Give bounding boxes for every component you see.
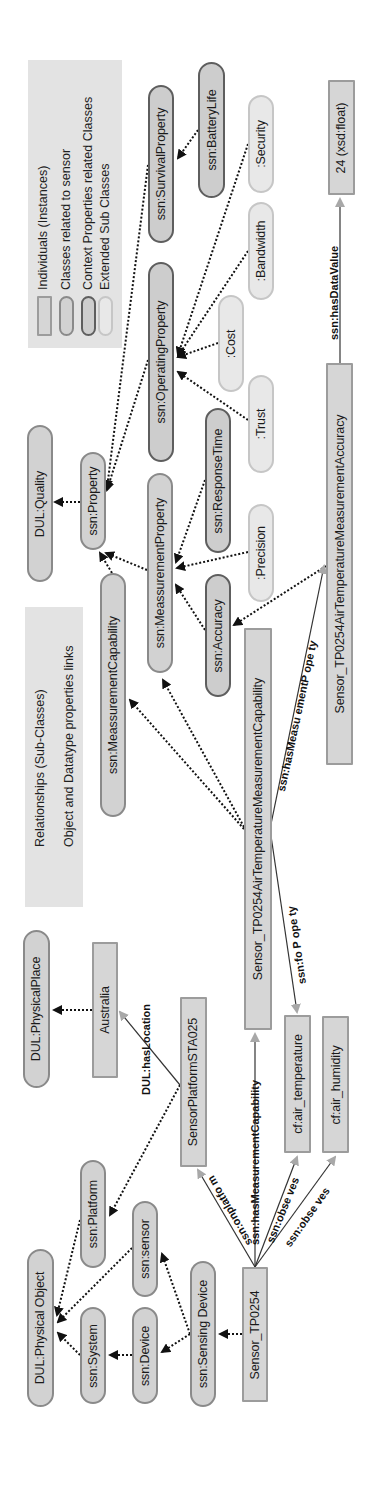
node-ssn-accuracy[interactable]: ssn:Accuracy [205, 574, 231, 697]
node-label: :Precision [254, 526, 268, 580]
node-dul-physical-object[interactable]: DUL:Physical Object [27, 1249, 54, 1407]
legend-link-types: Relationships (Sub-Classes) Object and D… [25, 607, 83, 907]
edge-label-has-data-value: ssn:hasDataValue [328, 246, 340, 340]
node-label: ssn:SurvivalProperty [154, 108, 168, 221]
legend-label-property-link: Object and Datatype properties links [62, 646, 76, 848]
edge-label-has-location: DUL:hasLocation [140, 1004, 152, 1095]
node-precision[interactable]: :Precision [248, 504, 274, 602]
node-ssn-measurement-capability[interactable]: ssn:MeassurementCapability [100, 573, 126, 817]
node-label: 24 (xsd:float) [335, 102, 349, 173]
legend-swatch-class [59, 296, 74, 336]
node-label: ssn:BatteryLife [205, 89, 219, 170]
node-ssn-platform[interactable]: ssn:Platform [80, 1160, 106, 1268]
node-label: cf:air_temperature [291, 1034, 305, 1134]
node-sensor-platform[interactable]: SensorPlatformSTA025 [180, 997, 207, 1167]
node-label: Australia [98, 986, 112, 1034]
node-label: ssn:MeassurementCapability [106, 616, 120, 774]
node-cost[interactable]: :Cost [218, 295, 244, 392]
node-label: :Security [254, 120, 268, 168]
node-cf-air-humidity[interactable]: cf:air_humidity [322, 1016, 349, 1153]
legend-label-context: Context Properties related Classes [81, 97, 95, 290]
node-label: DUL:Quality [33, 470, 47, 536]
node-cf-air-temperature[interactable]: cf:air_temperature [284, 1015, 311, 1153]
node-sensor-tp0254[interactable]: Sensor_TP0254 [242, 1267, 268, 1402]
legend-swatch-extended [98, 296, 113, 336]
legend-node-types: Individuals (Instances) Classes related … [28, 60, 122, 348]
node-ssn-device[interactable]: ssn:Device [132, 1307, 158, 1404]
legend-label-subclass-link: Relationships (Sub-Classes) [33, 689, 47, 847]
node-ssn-survival-property[interactable]: ssn:SurvivalProperty [148, 85, 174, 243]
node-data-value[interactable]: 24 (xsd:float) [328, 80, 355, 195]
node-label: Sensor_TP0254AirTemperatureMeasurementCa… [251, 678, 265, 980]
node-label: ssn:ResponseTime [211, 428, 225, 533]
node-label: DUL:PhysicalPlace [30, 957, 44, 1062]
node-label: ssn:Platform [86, 1180, 100, 1248]
node-ssn-system[interactable]: ssn:System [80, 1307, 106, 1404]
legend-label-extended: Extended Sub Classes [98, 164, 112, 290]
node-label: :Trust [254, 409, 268, 440]
node-label: Sensor_TP0254AirTemperatureMeasurementAc… [333, 414, 347, 713]
node-label: :Cost [224, 329, 238, 358]
node-ssn-sensor[interactable]: ssn:sensor [132, 1201, 158, 1297]
node-accuracy-individual[interactable]: Sensor_TP0254AirTemperatureMeasurementAc… [326, 363, 353, 765]
node-ssn-property[interactable]: ssn:Property [80, 452, 106, 550]
legend-label-individual: Individuals (Instances) [36, 166, 50, 290]
node-label: ssn:Sensing Device [196, 1280, 210, 1388]
node-security[interactable]: :Security [248, 95, 274, 193]
node-label: ssn:Property [86, 467, 100, 536]
node-ssn-sensing-device[interactable]: ssn:Sensing Device [190, 1261, 216, 1407]
legend-label-class: Classes related to sensor [59, 149, 73, 290]
node-label: :Bandwidth [254, 221, 268, 282]
node-bandwidth[interactable]: :Bandwidth [248, 202, 274, 300]
node-label: DUL:Physical Object [34, 1272, 48, 1385]
legend-swatch-context [81, 296, 96, 336]
node-dul-physical-place[interactable]: DUL:PhysicalPlace [23, 930, 50, 1088]
node-label: Sensor_TP0254 [248, 1290, 262, 1379]
node-label: cf:air_humidity [329, 1045, 343, 1124]
node-label: ssn:sensor [138, 1219, 152, 1278]
legend-swatch-individual [37, 296, 52, 336]
node-label: ssn:MeassurementProperty [153, 498, 167, 648]
node-ssn-measurement-property[interactable]: ssn:MeassurementProperty [147, 473, 173, 673]
node-label: ssn:Accuracy [211, 599, 225, 672]
node-label: SensorPlatformSTA025 [187, 1018, 201, 1146]
edge-label-has-measurement-capability: ssn:hasMeasurementCapability [249, 1080, 261, 1245]
node-ssn-operating-property[interactable]: ssn:OperatingProperty [148, 262, 174, 462]
node-label: ssn:System [86, 1324, 100, 1388]
node-capability-individual[interactable]: Sensor_TP0254AirTemperatureMeasurementCa… [244, 628, 272, 1030]
node-ssn-battery-life[interactable]: ssn:BatteryLife [198, 62, 225, 198]
node-australia[interactable]: Australia [92, 942, 118, 1078]
node-dul-quality[interactable]: DUL:Quality [27, 425, 53, 582]
node-trust[interactable]: :Trust [248, 375, 274, 473]
node-label: ssn:OperatingProperty [154, 301, 168, 424]
node-label: ssn:Device [138, 1325, 152, 1385]
node-ssn-response-time[interactable]: ssn:ResponseTime [205, 408, 231, 553]
